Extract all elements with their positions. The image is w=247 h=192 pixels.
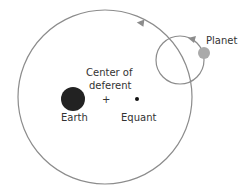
deferent-arrow-icon [136, 19, 145, 27]
ptolemaic-diagram: Planet Center of deferent + Earth Equant [0, 0, 247, 192]
planet-label: Planet [206, 35, 237, 46]
epicycle-circle [156, 36, 204, 84]
diagram-canvas: Planet Center of deferent + Earth Equant [0, 0, 247, 192]
equant-label: Equant [121, 112, 156, 123]
epicycle-arrow-icon [188, 36, 196, 43]
center-of-deferent-label-line2: deferent [89, 80, 132, 91]
center-of-deferent-label-line1: Center of [86, 67, 133, 78]
earth-body [61, 87, 85, 111]
center-of-deferent-mark: + [102, 94, 110, 105]
planet-body [198, 47, 210, 59]
equant-point [135, 97, 139, 101]
earth-label: Earth [61, 112, 88, 123]
